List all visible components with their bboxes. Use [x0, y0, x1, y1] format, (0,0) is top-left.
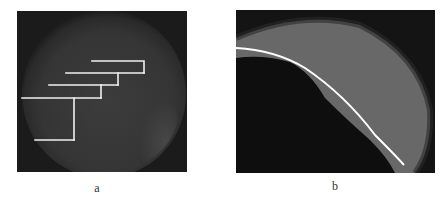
panel-b [236, 10, 435, 173]
panel-a-label: a [87, 182, 107, 194]
panel-a-image [17, 11, 187, 172]
panel-b-label: b [325, 180, 345, 192]
panel-a [17, 11, 187, 172]
panel-b-image [236, 10, 435, 173]
